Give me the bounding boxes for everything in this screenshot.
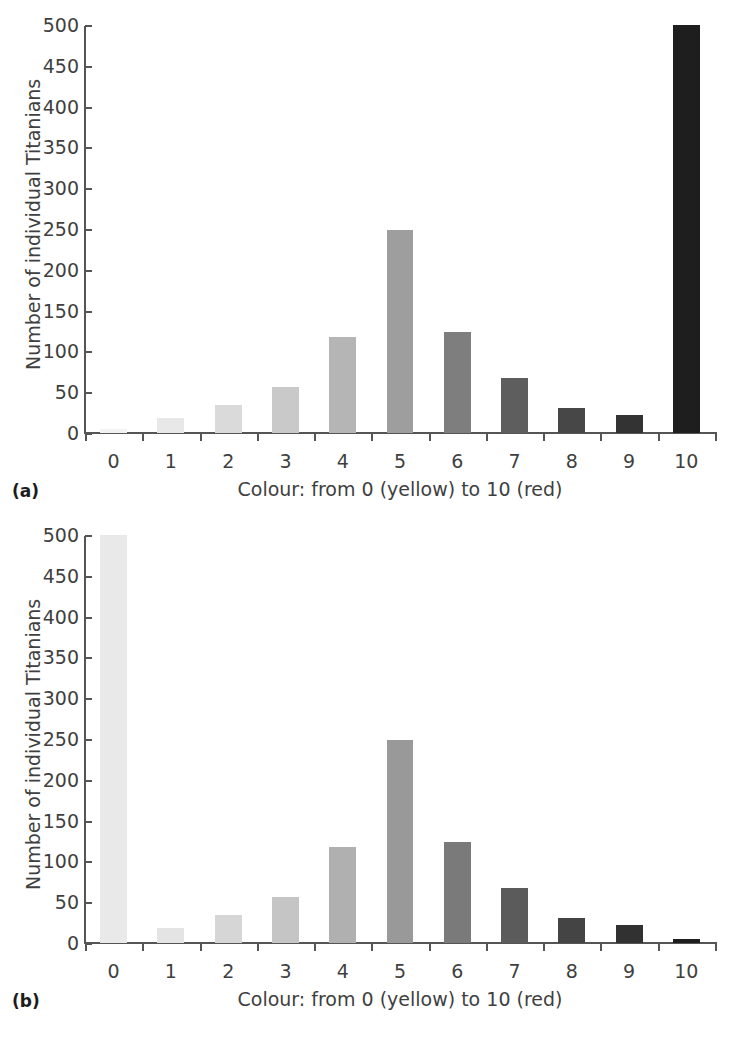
panel-a-x-tick-mark-2: [200, 432, 202, 441]
panel-b-x-tick-mark-1: [142, 942, 144, 951]
panel-a-x-tick-label-9: 9: [599, 450, 659, 472]
panel-b-y-tick-mark: [85, 535, 92, 537]
chart-panel-b: Number of individual Titanians 050100150…: [0, 510, 731, 1037]
panel-b-y-tick-label: 500: [19, 524, 79, 546]
panel-a-x-tick-label-5: 5: [370, 450, 430, 472]
panel-a-y-tick-mark: [85, 229, 92, 231]
panel-b-bar-6: [444, 842, 471, 943]
panel-b-x-tick-label-0: 0: [84, 960, 144, 982]
panel-a-x-tick-label-7: 7: [485, 450, 545, 472]
panel-a-y-tick-label: 0: [19, 422, 79, 444]
panel-b-y-tick-mark: [85, 576, 92, 578]
panel-b-y-tick-mark: [85, 739, 92, 741]
panel-b-x-tick-label-3: 3: [255, 960, 315, 982]
panel-b-y-tick-label: 300: [19, 687, 79, 709]
panel-a-y-tick-mark: [85, 66, 92, 68]
panel-b-x-tick-mark-6: [429, 942, 431, 951]
panel-a-x-tick-label-4: 4: [313, 450, 373, 472]
panel-a-bar-1: [157, 418, 184, 434]
panel-a-y-tick-mark: [85, 188, 92, 190]
panel-b-y-tick-label: 0: [19, 932, 79, 954]
panel-b-y-tick-label: 250: [19, 728, 79, 750]
panel-a-y-tick-mark: [85, 107, 92, 109]
panel-a-x-tick-mark-7: [486, 432, 488, 441]
panel-b-bar-8: [558, 918, 585, 943]
panel-b-y-tick-label: 50: [19, 891, 79, 913]
panel-a-x-tick-label-0: 0: [84, 450, 144, 472]
panel-a-tag: (a): [12, 481, 39, 501]
panel-b-plot-area: 0501001502002503003504004505000123456789…: [85, 536, 715, 944]
panel-b-x-tick-label-6: 6: [427, 960, 487, 982]
panel-a-y-tick-label: 300: [19, 177, 79, 199]
panel-a-x-tick-mark-5: [371, 432, 373, 441]
panel-b-bar-5: [387, 740, 414, 943]
panel-a-x-tick-label-8: 8: [542, 450, 602, 472]
panel-a-y-tick-mark: [85, 270, 92, 272]
panel-b-y-tick-mark: [85, 902, 92, 904]
panel-b-x-axis-label: Colour: from 0 (yellow) to 10 (red): [85, 988, 715, 1010]
panel-b-bar-1: [157, 928, 184, 944]
panel-b-bar-4: [329, 847, 356, 943]
panel-b-y-tick-label: 350: [19, 646, 79, 668]
panel-a-y-tick-label: 500: [19, 14, 79, 36]
panel-a-bar-3: [272, 387, 299, 433]
panel-b-x-tick-mark-4: [314, 942, 316, 951]
panel-a-x-tick-label-1: 1: [141, 450, 201, 472]
panel-a-x-tick-mark-4: [314, 432, 316, 441]
panel-b-y-tick-mark: [85, 657, 92, 659]
panel-b-bar-10: [673, 939, 700, 943]
panel-b-x-tick-label-10: 10: [656, 960, 716, 982]
panel-b-x-tick-label-1: 1: [141, 960, 201, 982]
panel-a-bar-8: [558, 408, 585, 433]
panel-a-y-tick-label: 200: [19, 259, 79, 281]
panel-b-x-tick-mark-11: [715, 942, 717, 951]
panel-a-x-tick-mark-3: [257, 432, 259, 441]
panel-b-x-tick-label-5: 5: [370, 960, 430, 982]
panel-a-y-tick-mark: [85, 25, 92, 27]
panel-b-x-tick-mark-0: [85, 942, 87, 951]
panel-b-y-tick-label: 400: [19, 606, 79, 628]
panel-b-bar-0: [100, 535, 127, 943]
panel-b-x-tick-mark-2: [200, 942, 202, 951]
panel-b-x-tick-label-8: 8: [542, 960, 602, 982]
panel-b-y-tick-mark: [85, 617, 92, 619]
panel-a-x-axis-label: Colour: from 0 (yellow) to 10 (red): [85, 478, 715, 500]
panel-a-x-tick-label-6: 6: [427, 450, 487, 472]
panel-a-y-tick-label: 250: [19, 218, 79, 240]
panel-b-x-tick-label-4: 4: [313, 960, 373, 982]
panel-a-y-tick-mark: [85, 147, 92, 149]
panel-a-bar-7: [501, 378, 528, 433]
panel-b-y-tick-label: 450: [19, 565, 79, 587]
panel-a-x-tick-mark-1: [142, 432, 144, 441]
panel-a-y-tick-label: 150: [19, 300, 79, 322]
panel-b-tag: (b): [12, 991, 40, 1011]
panel-a-y-tick-label: 50: [19, 381, 79, 403]
panel-b-bar-9: [616, 925, 643, 943]
panel-a-x-tick-mark-10: [658, 432, 660, 441]
panel-a-x-tick-mark-9: [600, 432, 602, 441]
panel-a-bar-6: [444, 332, 471, 433]
panel-a-x-tick-label-2: 2: [198, 450, 258, 472]
panel-b-y-tick-mark: [85, 780, 92, 782]
panel-b-y-tick-mark: [85, 698, 92, 700]
panel-a-bar-2: [215, 405, 242, 433]
panel-a-y-tick-mark: [85, 392, 92, 394]
panel-a-x-tick-mark-6: [429, 432, 431, 441]
panel-b-x-tick-label-7: 7: [485, 960, 545, 982]
panel-b-bar-3: [272, 897, 299, 944]
panel-a-y-tick-label: 350: [19, 136, 79, 158]
panel-a-bar-0: [100, 429, 127, 433]
panel-b-x-tick-mark-10: [658, 942, 660, 951]
panel-a-x-tick-mark-8: [543, 432, 545, 441]
panel-b-x-tick-mark-3: [257, 942, 259, 951]
panel-a-bar-9: [616, 415, 643, 433]
panel-a-x-tick-label-10: 10: [656, 450, 716, 472]
panel-b-x-tick-mark-7: [486, 942, 488, 951]
panel-b-bar-7: [501, 888, 528, 943]
panel-a-x-tick-label-3: 3: [255, 450, 315, 472]
panel-a-x-tick-mark-0: [85, 432, 87, 441]
panel-b-x-tick-mark-5: [371, 942, 373, 951]
panel-b-y-tick-label: 100: [19, 850, 79, 872]
panel-a-y-tick-label: 400: [19, 96, 79, 118]
panel-b-bar-2: [215, 915, 242, 943]
